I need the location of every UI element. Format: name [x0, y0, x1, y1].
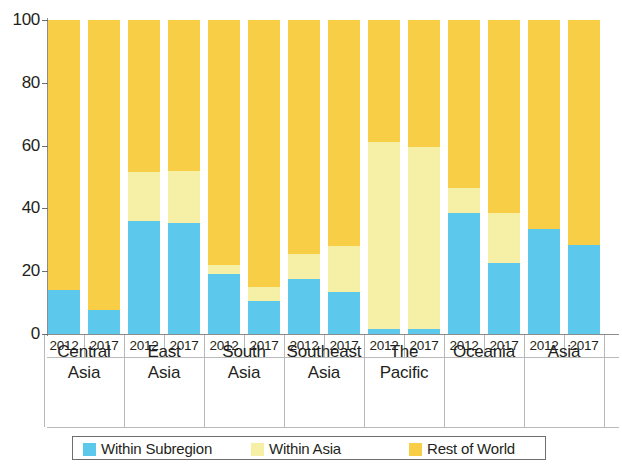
- x-axis-group-cell: ThePacific: [364, 335, 444, 405]
- bar-segment-within-asia: [448, 188, 480, 213]
- bar-segment-rest-of-world: [328, 20, 360, 246]
- bar-southeast-asia-2017: [328, 20, 360, 334]
- bar-segment-rest-of-world: [488, 20, 520, 213]
- x-axis-group-label: EastAsia: [147, 341, 180, 383]
- x-axis-category-table: 20122017CentralAsia20122017EastAsia20122…: [47, 335, 619, 427]
- legend-item-within-subregion[interactable]: Within Subregion: [83, 440, 212, 458]
- bar-segment-rest-of-world: [408, 20, 440, 147]
- bar-segment-rest-of-world: [168, 20, 200, 171]
- x-axis-group-label: SoutheastAsia: [287, 341, 362, 383]
- bar-segment-within-subregion: [568, 245, 600, 334]
- x-axis-group-divider: [284, 335, 285, 427]
- bar-segment-within-subregion: [88, 310, 120, 334]
- bar-segment-within-asia: [368, 142, 400, 329]
- bar-asia-2012: [528, 20, 560, 334]
- bar-segment-within-subregion: [288, 279, 320, 334]
- legend-item-rest-of-world[interactable]: Rest of World: [409, 440, 515, 458]
- x-axis-group-cell: SouthAsia: [204, 335, 284, 405]
- x-axis-group-label: CentralAsia: [57, 341, 110, 383]
- bar-segment-rest-of-world: [128, 20, 160, 172]
- bar-the-pacific-2017: [408, 20, 440, 334]
- bar-segment-within-asia: [328, 246, 360, 292]
- legend-label: Rest of World: [427, 441, 515, 457]
- x-axis-group-cell: Asia: [524, 335, 604, 405]
- bar-segment-rest-of-world: [88, 20, 120, 310]
- x-axis-rule: [47, 427, 619, 428]
- bar-the-pacific-2012: [368, 20, 400, 334]
- bar-segment-within-subregion: [528, 229, 560, 334]
- bar-segment-within-subregion: [128, 221, 160, 334]
- bar-segment-within-asia: [488, 213, 520, 263]
- bars-layer: [0, 0, 622, 340]
- legend-swatch-icon: [409, 443, 422, 456]
- bar-segment-rest-of-world: [568, 20, 600, 245]
- bar-segment-rest-of-world: [48, 20, 80, 290]
- bar-east-asia-2012: [128, 20, 160, 334]
- x-axis-group-label: SouthAsia: [222, 341, 265, 383]
- legend-swatch-icon: [83, 443, 96, 456]
- bar-east-asia-2017: [168, 20, 200, 334]
- bar-segment-within-asia: [128, 172, 160, 221]
- plot-area: 020406080100: [0, 0, 622, 340]
- bar-south-asia-2017: [248, 20, 280, 334]
- x-axis-group-divider: [124, 335, 125, 427]
- x-axis-group-divider: [364, 335, 365, 427]
- x-axis-group-divider: [444, 335, 445, 427]
- stacked-bar-chart: 020406080100 20122017CentralAsia20122017…: [0, 0, 622, 464]
- bar-segment-rest-of-world: [448, 20, 480, 188]
- x-axis-group-cell: SoutheastAsia: [284, 335, 364, 405]
- x-axis-rule: [47, 357, 619, 358]
- bar-oceania-2017: [488, 20, 520, 334]
- bar-segment-within-subregion: [208, 274, 240, 334]
- bar-segment-within-asia: [168, 171, 200, 223]
- bar-segment-within-asia: [248, 287, 280, 301]
- bar-segment-within-asia: [288, 254, 320, 279]
- x-axis-group-divider: [44, 335, 45, 427]
- x-axis-group-divider: [604, 335, 605, 427]
- legend-label: Within Asia: [269, 441, 341, 457]
- chart-legend: Within SubregionWithin AsiaRest of World: [72, 436, 546, 460]
- bar-oceania-2012: [448, 20, 480, 334]
- y-tick-mark-40: [42, 208, 48, 209]
- bar-segment-within-asia: [208, 265, 240, 274]
- bar-segment-within-subregion: [408, 329, 440, 334]
- legend-label: Within Subregion: [101, 441, 212, 457]
- bar-segment-within-subregion: [248, 301, 280, 334]
- bar-asia-2017: [568, 20, 600, 334]
- legend-swatch-icon: [251, 443, 264, 456]
- bar-segment-rest-of-world: [208, 20, 240, 265]
- bar-segment-within-subregion: [48, 290, 80, 334]
- y-tick-mark-60: [42, 146, 48, 147]
- bar-segment-within-asia: [408, 147, 440, 329]
- x-axis-group-label: Asia: [548, 341, 580, 362]
- y-tick-mark-80: [42, 83, 48, 84]
- bar-central-asia-2017: [88, 20, 120, 334]
- x-axis-group-cell: EastAsia: [124, 335, 204, 405]
- bar-segment-within-subregion: [488, 263, 520, 334]
- x-axis-group-cell: Oceania: [444, 335, 524, 405]
- bar-southeast-asia-2012: [288, 20, 320, 334]
- bar-segment-within-subregion: [168, 223, 200, 334]
- x-axis-group-divider: [524, 335, 525, 427]
- bar-segment-within-subregion: [368, 329, 400, 334]
- x-axis-group-cell: CentralAsia: [44, 335, 124, 405]
- bar-central-asia-2012: [48, 20, 80, 334]
- y-tick-mark-20: [42, 271, 48, 272]
- bar-segment-rest-of-world: [368, 20, 400, 142]
- bar-segment-rest-of-world: [248, 20, 280, 287]
- bar-segment-within-subregion: [448, 213, 480, 334]
- bar-segment-rest-of-world: [528, 20, 560, 229]
- x-axis-group-label: ThePacific: [380, 341, 429, 383]
- x-axis-group-label: Oceania: [453, 341, 515, 362]
- bar-south-asia-2012: [208, 20, 240, 334]
- legend-item-within-asia[interactable]: Within Asia: [251, 440, 341, 458]
- bar-segment-within-subregion: [328, 292, 360, 334]
- bar-segment-rest-of-world: [288, 20, 320, 254]
- x-axis-group-divider: [204, 335, 205, 427]
- y-tick-mark-100: [42, 20, 48, 21]
